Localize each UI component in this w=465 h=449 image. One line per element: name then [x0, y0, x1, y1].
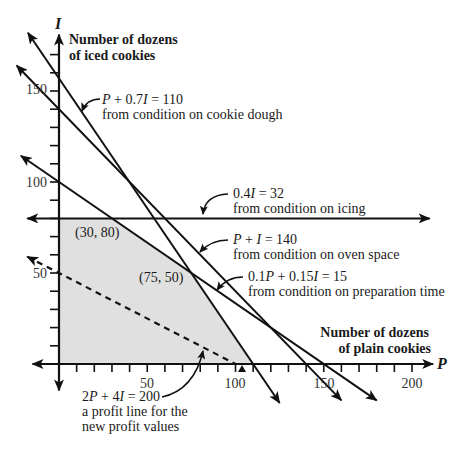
- linear-programming-graph: I P Number of dozens of iced cookies Num…: [0, 0, 465, 449]
- icing-note: from condition on icing: [233, 201, 366, 216]
- prep-equation: 0.1P + 0.15I = 15: [248, 269, 347, 284]
- x-tick-label-100: 100: [225, 376, 246, 391]
- axis-marker-triangle-icon: [238, 365, 246, 372]
- x-axis-title-line-2: of plain cookies: [338, 341, 431, 356]
- dough-equation: P + 0.7I = 110: [101, 92, 183, 107]
- y-tick-label-50: 50: [33, 266, 47, 281]
- oven-equation: P + I = 140: [232, 232, 297, 247]
- prep-pointer-arrow-icon: [217, 277, 243, 290]
- vertex-label-75-50: (75, 50): [139, 270, 184, 286]
- profit-note-line-2: new profit values: [82, 419, 179, 434]
- x-tick-label-200: 200: [402, 376, 423, 391]
- y-axis-symbol: I: [54, 15, 62, 32]
- dough-pointer-arrow-icon: [82, 99, 100, 111]
- icing-pointer-arrow-icon: [203, 194, 228, 214]
- dough-note: from condition on cookie dough: [102, 107, 282, 122]
- y-tick-label-100: 100: [26, 175, 47, 190]
- x-tick-label-150: 150: [314, 376, 335, 391]
- oven-pointer-arrow-icon: [200, 240, 228, 252]
- prep-note: from condition on preparation time: [248, 284, 445, 299]
- x-axis-symbol: P: [436, 355, 447, 372]
- y-axis-title-line-2: of iced cookies: [69, 48, 156, 63]
- oven-note: from condition on oven space: [233, 247, 399, 262]
- icing-equation: 0.4I = 32: [233, 186, 284, 201]
- x-axis-title-line-1: Number of dozens: [320, 325, 429, 340]
- y-tick-label-150: 150: [26, 82, 47, 97]
- profit-note-line-1: a profit line for the: [82, 404, 188, 419]
- profit-equation: 2P + 4I = 200: [82, 389, 160, 404]
- vertex-label-30-80: (30, 80): [75, 225, 120, 241]
- y-axis-title-line-1: Number of dozens: [69, 32, 178, 47]
